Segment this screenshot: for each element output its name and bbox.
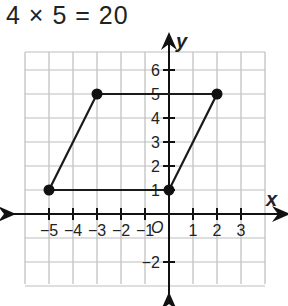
vertex-point [92,89,103,100]
x-tick-label: −3 [88,222,106,239]
coordinate-plane: −5−4−3−2−1123654321−2 x y O [0,0,288,306]
vertex-point [44,185,55,196]
y-tick-label: 3 [151,134,160,151]
origin-label: O [151,219,163,236]
x-tick-label: −5 [40,222,58,239]
x-tick-label: 2 [213,222,222,239]
y-tick-label: 4 [151,110,160,127]
x-tick-label: −2 [112,222,130,239]
y-tick-label: 6 [151,62,160,79]
x-tick-label: −4 [64,222,82,239]
x-tick-label: 3 [237,222,246,239]
x-tick-label: 1 [189,222,198,239]
y-tick-label: 2 [151,158,160,175]
vertex-point [164,185,175,196]
vertex-point [212,89,223,100]
grid-lines [25,52,265,286]
x-axis-label: x [265,188,278,210]
y-tick-label: −2 [142,254,160,271]
y-axis-label: y [175,30,188,52]
